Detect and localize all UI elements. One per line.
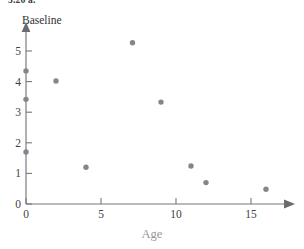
x-axis-tick-label: 10 xyxy=(170,209,182,220)
data-point xyxy=(188,163,193,168)
y-axis-tick-label: 1 xyxy=(8,168,21,179)
data-point xyxy=(23,68,28,73)
data-point xyxy=(53,78,58,83)
data-point xyxy=(23,149,28,154)
data-point xyxy=(23,97,28,102)
data-point xyxy=(158,99,163,104)
y-axis-tick-label: 3 xyxy=(8,107,21,118)
x-axis-tick-label: 0 xyxy=(23,209,29,220)
data-point xyxy=(203,180,208,185)
y-axis-tick-label: 2 xyxy=(8,137,21,148)
x-axis-arrowhead xyxy=(284,200,295,209)
x-axis-tick-label: 15 xyxy=(245,209,257,220)
y-axis-tick-label: 4 xyxy=(8,76,21,87)
data-point-series xyxy=(23,40,268,192)
data-point xyxy=(263,187,268,192)
x-axis-tick-label: 5 xyxy=(98,209,104,220)
scatter-plot-figure: 5.26 a. Baseline Age 051015 012345 xyxy=(0,0,304,249)
axes-group xyxy=(22,22,295,208)
data-point xyxy=(83,165,88,170)
plot-canvas xyxy=(0,0,304,249)
y-axis-arrowhead xyxy=(22,22,31,32)
data-point xyxy=(130,40,135,45)
y-axis-tick-label: 0 xyxy=(8,199,21,210)
y-axis-tick-label: 5 xyxy=(8,46,21,57)
y-axis-ticks xyxy=(26,51,32,204)
x-axis-ticks xyxy=(26,198,251,204)
